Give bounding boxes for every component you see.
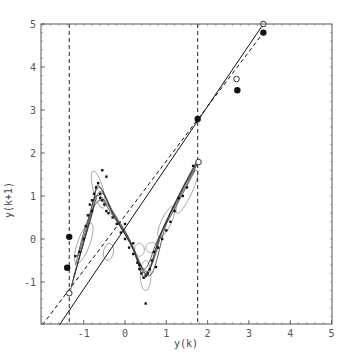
data-point: [97, 182, 99, 184]
data-point: [107, 212, 109, 214]
uncertainty-ellipses: [71, 168, 202, 290]
data-point: [124, 238, 126, 240]
data-point: [186, 186, 188, 188]
data-point: [87, 214, 89, 216]
data-point: [101, 199, 103, 201]
data-point: [74, 255, 76, 257]
data-point: [116, 223, 118, 225]
y-tick-label: -1: [24, 277, 36, 288]
data-point: [169, 221, 171, 223]
filled-dot-marker: [234, 87, 240, 93]
trajectory-curve: [78, 159, 198, 275]
data-point: [144, 274, 146, 276]
data-point: [101, 169, 103, 171]
data-point: [173, 210, 175, 212]
data-point: [138, 268, 140, 270]
data-point: [105, 175, 107, 177]
data-point: [165, 229, 167, 231]
dashed-fit-line: [42, 33, 263, 325]
data-point: [177, 197, 179, 199]
trajectory-curve: [69, 162, 197, 295]
y-tick-label: 5: [30, 19, 36, 30]
data-point: [128, 246, 130, 248]
y-axis-title: y(k+1): [3, 182, 14, 218]
data-point: [111, 216, 113, 218]
y-tick-label: 3: [30, 105, 36, 116]
data-point: [182, 195, 184, 197]
data-point: [103, 203, 105, 205]
data-point: [120, 231, 122, 233]
x-tick-label: -1: [78, 328, 90, 339]
open-circle-marker: [196, 159, 202, 165]
x-tick-label: 4: [287, 328, 293, 339]
x-tick-label: 1: [163, 328, 169, 339]
y-tick-label: 4: [30, 62, 36, 73]
data-point: [155, 266, 157, 268]
data-point: [124, 223, 126, 225]
data-point: [132, 242, 134, 244]
data-point: [83, 238, 85, 240]
vertical-dashed-lines: [69, 24, 197, 324]
data-point: [91, 199, 93, 201]
data-point: [192, 165, 194, 167]
filled-dot-marker: [260, 29, 266, 35]
x-tick-label: 5: [328, 328, 334, 339]
data-point: [136, 261, 138, 263]
data-point: [140, 272, 142, 274]
y-tick-label: 2: [30, 148, 36, 159]
data-point: [91, 210, 93, 212]
open-circle-marker: [66, 290, 72, 296]
y-tick-label: 1: [30, 191, 36, 202]
data-point: [157, 246, 159, 248]
data-point: [161, 238, 163, 240]
data-point: [149, 268, 151, 270]
uncertainty-ellipse: [172, 168, 201, 215]
data-point: [153, 251, 155, 253]
x-tick-label: 2: [205, 328, 211, 339]
data-point: [142, 277, 144, 279]
data-point: [105, 210, 107, 212]
trajectory-curve: [73, 164, 197, 278]
data-point: [99, 197, 101, 199]
data-point: [144, 302, 146, 304]
data-point: [78, 251, 80, 253]
fit-lines: [42, 24, 263, 325]
filled-dot-marker: [64, 265, 70, 271]
open-circle-marker: [234, 76, 240, 82]
solid-fit-line: [59, 24, 263, 325]
trajectory-curve: [71, 162, 197, 287]
filled-dot-marker: [194, 116, 200, 122]
data-point: [138, 264, 140, 266]
data-point: [147, 272, 149, 274]
y-tick-label: 0: [30, 234, 36, 245]
data-point: [85, 225, 87, 227]
plot-frame: [41, 24, 332, 324]
data-point: [95, 186, 97, 188]
x-tick-label: 0: [122, 328, 128, 339]
x-axis-title: y(k): [174, 338, 198, 349]
data-point: [132, 253, 134, 255]
data-point: [99, 193, 101, 195]
x-tick-label: 3: [246, 328, 252, 339]
highlight-markers: [64, 21, 267, 296]
data-point: [89, 203, 91, 205]
filled-dot-marker: [66, 234, 72, 240]
phase-plot: -1012345-1012345 y(k) y(k+1): [0, 0, 350, 361]
data-point: [151, 259, 153, 261]
data-point: [93, 193, 95, 195]
trajectory-curves: [69, 159, 197, 294]
